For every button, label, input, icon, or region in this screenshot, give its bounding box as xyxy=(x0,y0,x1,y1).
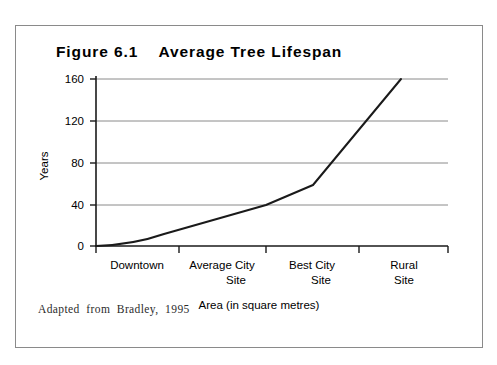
y-axis-title: Years xyxy=(38,151,50,180)
y-tick-label-160: 160 xyxy=(65,73,84,85)
line-chart: 160 120 80 40 0 Years Downtown Average C… xyxy=(16,26,482,347)
figure-frame: Figure 6.1 Average Tree Lifespan xyxy=(15,25,483,348)
gridlines xyxy=(96,79,448,205)
figure-caption: Adapted from Bradley, 1995 xyxy=(38,303,190,315)
x-tick-label-downtown-line1: Downtown xyxy=(110,259,164,271)
y-tick-label-40: 40 xyxy=(71,199,84,211)
x-axis-ticks xyxy=(96,246,448,253)
x-axis-category-labels: Downtown Average City Site Best City Sit… xyxy=(110,259,418,286)
x-tick-label-best-city-line2: Site xyxy=(311,274,331,286)
x-tick-label-average-city-line1: Average City xyxy=(189,259,255,271)
x-axis-title: Area (in square metres) xyxy=(199,299,320,311)
y-tick-label-120: 120 xyxy=(65,115,84,127)
y-axis-ticks xyxy=(90,79,96,246)
x-tick-label-average-city-line2: Site xyxy=(226,274,246,286)
y-tick-label-80: 80 xyxy=(71,157,84,169)
x-tick-label-rural-line2: Site xyxy=(394,274,414,286)
x-tick-label-rural-line1: Rural xyxy=(390,259,417,271)
y-tick-label-0: 0 xyxy=(78,240,84,252)
x-tick-label-best-city-line1: Best City xyxy=(289,259,335,271)
